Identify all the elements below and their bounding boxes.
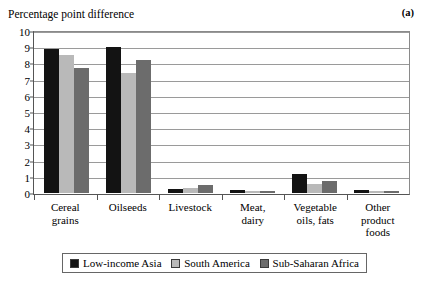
x-axis-category-label: Cerealgrains — [34, 201, 97, 239]
bar — [74, 68, 89, 193]
bar — [245, 191, 260, 193]
x-axis-label-line: oils, fats — [285, 214, 346, 227]
y-axis-tick-label: 6 — [25, 91, 31, 102]
legend-item: South America — [171, 257, 250, 269]
bar-group — [159, 32, 221, 193]
x-axis-label-line: Other — [348, 201, 409, 214]
y-axis-tick-mark — [30, 145, 34, 146]
legend-swatch-icon — [171, 259, 180, 268]
x-axis-tick — [159, 195, 222, 200]
bar — [322, 181, 337, 193]
plot-area: 012345678910 — [33, 31, 410, 195]
x-axis-category-label: Oilseeds — [97, 201, 160, 239]
panel-label: (a) — [402, 7, 414, 18]
bar — [260, 191, 275, 193]
tick-mark — [284, 195, 285, 200]
y-axis-tick-mark — [30, 129, 34, 130]
y-axis-tick-label: 8 — [25, 59, 31, 70]
bar — [44, 49, 59, 193]
x-axis-label-line: product — [348, 214, 409, 227]
y-axis-tick-mark — [30, 32, 34, 33]
bar — [106, 47, 121, 193]
tick-mark — [159, 195, 160, 200]
y-axis-tick-label: 1 — [25, 172, 31, 183]
bar-group — [222, 32, 284, 193]
bar — [121, 73, 136, 193]
bar — [230, 190, 245, 193]
x-axis-label-line: Vegetable — [285, 201, 346, 214]
tick-mark — [97, 195, 98, 200]
y-axis-tick-mark — [30, 161, 34, 162]
bar — [168, 189, 183, 193]
y-axis-tick-label: 2 — [25, 156, 31, 167]
x-axis-category-label: Otherproductfoods — [347, 201, 410, 239]
bar — [59, 55, 74, 193]
legend-swatch-icon — [260, 259, 269, 268]
bar — [307, 184, 322, 193]
y-axis-tick-mark — [30, 64, 34, 65]
y-axis-title: Percentage point difference — [8, 8, 134, 21]
y-axis-tick-label: 7 — [25, 75, 31, 86]
y-axis-tick-mark — [30, 96, 34, 97]
x-axis-tick — [347, 195, 410, 200]
bar-groups — [35, 32, 408, 193]
tick-mark — [34, 195, 35, 200]
x-axis-ticks — [34, 195, 409, 200]
legend-label: Sub-Saharan Africa — [273, 257, 359, 269]
y-axis-tick-label: 10 — [19, 27, 30, 38]
y-axis-tick-label: 5 — [25, 108, 31, 119]
x-axis-label-line: Livestock — [160, 201, 221, 214]
bar-group — [346, 32, 408, 193]
y-axis-tick-mark — [30, 113, 34, 114]
x-axis-label-line: foods — [348, 226, 409, 239]
bar — [136, 60, 151, 193]
x-axis-category-label: Meat,dairy — [222, 201, 285, 239]
y-axis-tick-label: 4 — [25, 124, 31, 135]
tick-mark — [347, 195, 348, 200]
y-axis-tick-label: 3 — [25, 140, 31, 151]
legend-swatch-icon — [70, 259, 79, 268]
y-axis-tick-mark — [30, 177, 34, 178]
bar — [183, 188, 198, 193]
bar — [198, 185, 213, 193]
y-axis-tick-label: 9 — [25, 43, 31, 54]
x-axis-tick — [222, 195, 285, 200]
bar — [384, 191, 399, 193]
bar — [369, 191, 384, 193]
bar-group — [35, 32, 97, 193]
bar-group — [97, 32, 159, 193]
x-axis-tick — [34, 195, 97, 200]
x-axis-tick — [97, 195, 160, 200]
bar-chart-figure: Percentage point difference (a) 01234567… — [0, 0, 423, 290]
bar — [292, 174, 307, 193]
x-axis-label-line: Oilseeds — [98, 201, 159, 214]
x-axis-tick — [284, 195, 347, 200]
tick-mark — [222, 195, 223, 200]
y-axis-tick-label: 0 — [25, 189, 31, 200]
legend-label: South America — [184, 257, 250, 269]
bar — [354, 190, 369, 193]
x-axis-label-line: Cereal — [35, 201, 96, 214]
x-axis-category-label: Livestock — [159, 201, 222, 239]
x-axis-label-line: dairy — [223, 214, 284, 227]
x-axis-label-line: grains — [35, 214, 96, 227]
x-axis-label-line: Meat, — [223, 201, 284, 214]
chart-legend: Low-income AsiaSouth AmericaSub-Saharan … — [62, 253, 367, 273]
legend-item: Low-income Asia — [70, 257, 162, 269]
bar-group — [284, 32, 346, 193]
legend-label: Low-income Asia — [83, 257, 162, 269]
legend-item: Sub-Saharan Africa — [260, 257, 359, 269]
x-axis-category-label: Vegetableoils, fats — [284, 201, 347, 239]
x-axis-labels: CerealgrainsOilseedsLivestockMeat,dairyV… — [34, 201, 409, 239]
y-axis-tick-mark — [30, 80, 34, 81]
y-axis-tick-mark — [30, 48, 34, 49]
